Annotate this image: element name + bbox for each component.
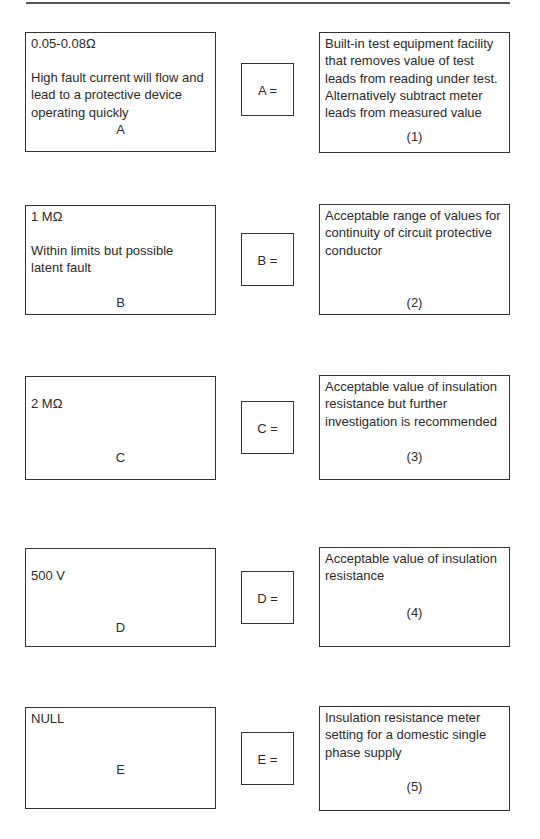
term-value: 500 V (31, 567, 65, 584)
term-box-b: 1 MΩ Within limits but possible latent f… (25, 205, 216, 315)
definition-number: (1) (320, 128, 509, 145)
definition-line: setting for a domestic single (325, 726, 486, 743)
answer-label: D = (242, 589, 293, 606)
answer-box-a[interactable]: A = (241, 63, 294, 116)
definition-line: Insulation resistance meter (325, 709, 486, 726)
description-line: lead to a protective device (31, 86, 204, 103)
term-letter: B (26, 294, 215, 311)
term-letter: E (26, 761, 215, 778)
term-value: NULL (31, 710, 64, 727)
answer-label: E = (242, 750, 293, 767)
definition-box-3: Acceptable value of insulation resistanc… (319, 375, 510, 480)
definition-box-2: Acceptable range of values for continuit… (319, 204, 510, 315)
definition-number: (2) (320, 294, 509, 311)
definition-line: Acceptable value of insulation (325, 550, 497, 567)
description-line: High fault current will flow and (31, 69, 204, 86)
definition-box-1: Built-in test equipment facility that re… (319, 32, 510, 153)
definition-line: phase supply (325, 744, 486, 761)
answer-label: C = (242, 419, 293, 436)
definition-text: Built-in test equipment facility that re… (325, 35, 498, 121)
term-letter: A (26, 121, 215, 138)
definition-text: Acceptable value of insulation resistanc… (325, 550, 497, 585)
term-box-a: 0.05-0.08Ω High fault current will flow … (25, 32, 216, 152)
term-letter: C (26, 449, 215, 466)
definition-line: leads from measured value (325, 104, 498, 121)
definition-line: Acceptable range of values for (325, 207, 501, 224)
definition-line: investigation is recommended (325, 413, 497, 430)
term-value: 1 MΩ (31, 208, 62, 225)
definition-line: Alternatively subtract meter (325, 87, 498, 104)
definition-text: Insulation resistance meter setting for … (325, 709, 486, 761)
answer-box-c[interactable]: C = (241, 401, 294, 454)
definition-number: (3) (320, 448, 509, 465)
answer-box-b[interactable]: B = (241, 233, 294, 286)
term-box-c: 2 MΩ C (25, 376, 216, 480)
definition-number: (4) (320, 604, 509, 621)
definition-line: conductor (325, 242, 501, 259)
definition-box-4: Acceptable value of insulation resistanc… (319, 547, 510, 647)
term-value: 2 MΩ (31, 395, 62, 412)
answer-label: A = (242, 81, 293, 98)
description-line: latent fault (31, 259, 173, 276)
term-box-d: 500 V D (25, 548, 216, 647)
definition-number: (5) (320, 778, 509, 795)
definition-text: Acceptable range of values for continuit… (325, 207, 501, 259)
term-box-e: NULL E (25, 707, 216, 809)
definition-line: Acceptable value of insulation (325, 378, 497, 395)
term-letter: D (26, 619, 215, 636)
definition-line: leads from reading under test. (325, 70, 498, 87)
definition-line: that removes value of test (325, 52, 498, 69)
definition-line: Built-in test equipment facility (325, 35, 498, 52)
description-line: operating quickly (31, 104, 204, 121)
definition-line: resistance but further (325, 395, 497, 412)
definition-box-5: Insulation resistance meter setting for … (319, 706, 510, 811)
answer-label: B = (242, 251, 293, 268)
description-line: Within limits but possible (31, 242, 173, 259)
term-description: Within limits but possible latent fault (31, 242, 173, 277)
definition-line: resistance (325, 567, 497, 584)
answer-box-e[interactable]: E = (241, 732, 294, 785)
definition-line: continuity of circuit protective (325, 224, 501, 241)
term-description: High fault current will flow and lead to… (31, 69, 204, 121)
top-rule-divider (26, 2, 510, 4)
definition-text: Acceptable value of insulation resistanc… (325, 378, 497, 430)
answer-box-d[interactable]: D = (241, 571, 294, 624)
term-value: 0.05-0.08Ω (31, 35, 96, 52)
